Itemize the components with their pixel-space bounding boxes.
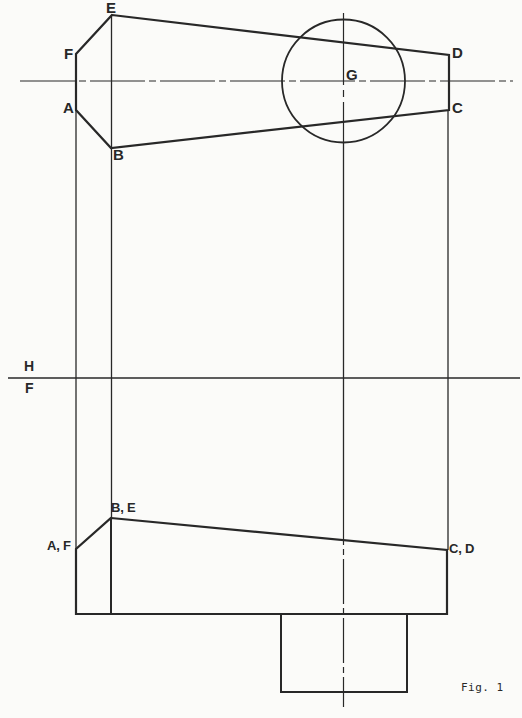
figure-caption: Fig. 1 — [461, 682, 504, 693]
label-af: A, F — [47, 539, 71, 552]
figure-page: E F A B G D C H F B, E A, F C, D Fig. 1 — [0, 0, 522, 718]
label-fold-f: F — [25, 381, 34, 395]
label-fold-h: H — [24, 359, 34, 373]
label-c: C — [452, 100, 463, 115]
label-d: D — [452, 45, 463, 60]
orthographic-projection-drawing — [0, 0, 522, 718]
front-view-outline — [76, 518, 447, 614]
label-b: B — [113, 147, 124, 162]
label-cd: C, D — [449, 542, 474, 555]
label-g: G — [346, 67, 358, 82]
label-e: E — [106, 0, 116, 15]
label-a: A — [63, 100, 74, 115]
label-be: B, E — [111, 501, 135, 514]
label-f: F — [64, 46, 73, 61]
